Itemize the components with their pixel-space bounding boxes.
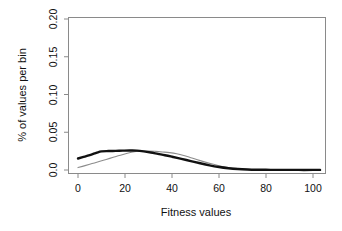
y-tick-label: 0.05 [47, 122, 59, 142]
chart-figure: 020406080100 0.00.050.100.150.20 Fitness… [0, 0, 342, 231]
y-tick-label: 0.10 [47, 84, 59, 104]
y-tick-label: 0.15 [47, 47, 59, 67]
y-axis-title: % of values per bin [16, 48, 28, 142]
y-tick-label: 0.0 [47, 163, 59, 178]
x-tick-label: 100 [304, 182, 322, 194]
chart-background [0, 0, 342, 231]
x-axis-title: Fitness values [161, 206, 231, 218]
line-chart-plot [0, 0, 342, 231]
x-tick-label: 80 [260, 182, 272, 194]
x-tick-label: 20 [119, 182, 131, 194]
x-tick-label: 40 [166, 182, 178, 194]
x-tick-label: 0 [75, 182, 81, 194]
x-tick-label: 60 [213, 182, 225, 194]
y-tick-label: 0.20 [47, 9, 59, 29]
